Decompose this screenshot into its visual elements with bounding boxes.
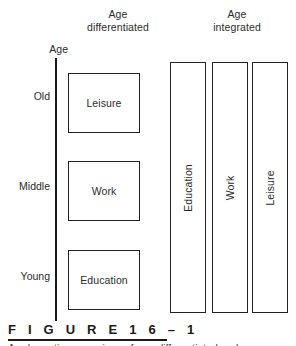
integrated-bar-label: Leisure (264, 170, 276, 205)
axis-line-vertical (55, 58, 57, 321)
differentiated-box-label: Education (80, 274, 128, 286)
figure-container: Age differentiated Age integrated Age Ol… (0, 0, 296, 346)
figure-caption-label: F I G U R E 1 6 – 1 (8, 322, 198, 337)
integrated-bar-label: Work (224, 175, 236, 200)
caption-rule-divider (8, 339, 167, 341)
column-header-line1: Age (228, 8, 247, 20)
integrated-bar-leisure: Leisure (252, 62, 288, 313)
axis-tick-middle: Middle (4, 180, 50, 193)
column-header-age-differentiated: Age differentiated (58, 8, 178, 34)
figure-caption-subtext: A schematic comparison of age-differenti… (8, 342, 292, 346)
axis-tick-old: Old (4, 90, 50, 103)
differentiated-box-label: Leisure (86, 97, 121, 109)
differentiated-box-education: Education (68, 250, 140, 310)
integrated-bar-work: Work (212, 62, 248, 313)
axis-tick-young: Young (4, 270, 50, 283)
differentiated-box-work: Work (68, 161, 140, 221)
column-header-line2: differentiated (58, 21, 178, 34)
column-header-line2: integrated (182, 21, 292, 34)
differentiated-box-leisure: Leisure (68, 73, 140, 133)
column-header-age-integrated: Age integrated (182, 8, 292, 34)
integrated-bar-label: Education (182, 164, 194, 212)
differentiated-box-label: Work (92, 185, 117, 197)
axis-title-age: Age (22, 43, 68, 56)
column-header-line1: Age (109, 8, 128, 20)
integrated-bar-education: Education (170, 62, 206, 313)
